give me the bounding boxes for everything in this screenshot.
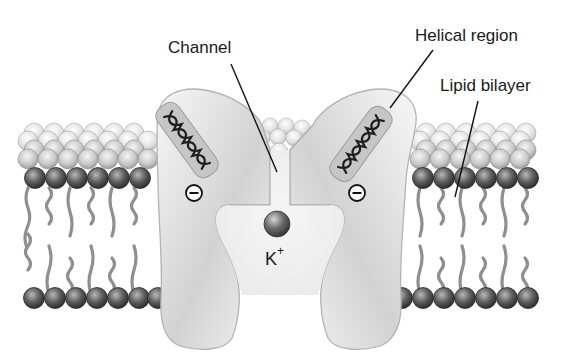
helical-region-label: Helical region — [415, 27, 518, 44]
lipid-tails-left — [25, 188, 137, 294]
lipid-bilayer-right — [392, 123, 539, 309]
helical-region-leader-line — [390, 50, 433, 108]
lipid-tails-right — [418, 188, 528, 294]
membrane-surface-left — [18, 123, 158, 169]
lipid-bilayer-left — [18, 123, 169, 309]
diagram-canvas — [0, 0, 574, 363]
ion-charge: + — [277, 244, 284, 258]
ion-symbol: K — [265, 249, 277, 269]
lipid-bilayer-label: Lipid bilayer — [440, 77, 531, 94]
channel-protein — [152, 89, 416, 349]
lipid-heads-upper-right — [413, 168, 539, 189]
lipid-heads-lower-left — [24, 288, 169, 309]
ion-label: K+ — [265, 248, 284, 268]
negative-charge-right-icon — [349, 185, 365, 201]
potassium-channel-diagram: Channel Helical region Lipid bilayer K+ — [0, 0, 574, 363]
lipid-heads-lower-right — [392, 288, 539, 309]
membrane-surface-right — [410, 123, 536, 169]
lipid-heads-upper-left — [25, 168, 151, 189]
channel-label: Channel — [168, 39, 231, 56]
potassium-ion — [264, 211, 290, 237]
negative-charge-left-icon — [186, 185, 202, 201]
